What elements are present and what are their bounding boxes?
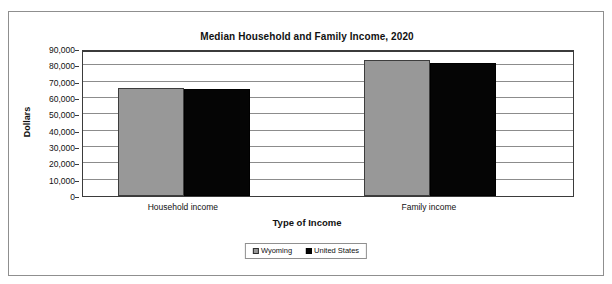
chart-figure-frame: Median Household and Family Income, 2020… [8,11,604,276]
x-axis-title: Type of Income [9,217,605,228]
legend-label: Wyoming [261,247,292,255]
bar-family-income-wyoming [364,60,430,196]
y-axis-tick-mark [75,83,79,84]
y-axis-tick-label: 0 [17,192,75,202]
y-axis-tick-mark [75,181,79,182]
y-axis-tick-label: 70,000 [17,78,75,88]
y-axis-tick-mark [75,99,79,100]
x-axis-category-label: Household income [148,202,218,212]
legend-label: United States [314,247,359,255]
y-axis-tick-mark [75,197,79,198]
y-axis-tick-label: 90,000 [17,45,75,55]
y-axis-tick-mark [75,132,79,133]
x-axis-category-label: Family income [401,202,456,212]
legend-swatch-icon [253,248,259,254]
bar-household-income-wyoming [118,88,184,196]
bar-family-income-united-states [430,63,496,196]
legend-entry-united-states: United States [306,247,359,255]
chart-legend: WyomingUnited States [245,243,367,259]
legend-swatch-icon [306,248,312,254]
y-axis-tick-label: 50,000 [17,110,75,120]
gridline [83,81,573,82]
y-axis-tick-label: 10,000 [17,176,75,186]
y-axis-tick-labels: 90,00080,00070,00060,00050,00040,00030,0… [17,50,75,197]
y-axis-tick-mark [75,115,79,116]
chart-title: Median Household and Family Income, 2020 [9,31,605,42]
y-axis-tick-label: 80,000 [17,61,75,71]
y-axis-tick-label: 30,000 [17,143,75,153]
y-axis-tick-label: 20,000 [17,159,75,169]
y-axis-tick-label: 40,000 [17,127,75,137]
legend-entry-wyoming: Wyoming [253,247,292,255]
bar-household-income-united-states [184,89,250,196]
y-axis-tick-mark [75,66,79,67]
gridline [83,64,573,65]
y-axis-tick-mark [75,50,79,51]
plot-area [82,50,574,197]
x-axis-category-labels: Household incomeFamily income [82,202,574,218]
y-axis-tick-mark [75,164,79,165]
y-axis-tick-label: 60,000 [17,94,75,104]
y-axis-tick-mark [75,148,79,149]
